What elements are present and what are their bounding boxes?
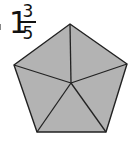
pentagon-diagram — [0, 0, 134, 141]
